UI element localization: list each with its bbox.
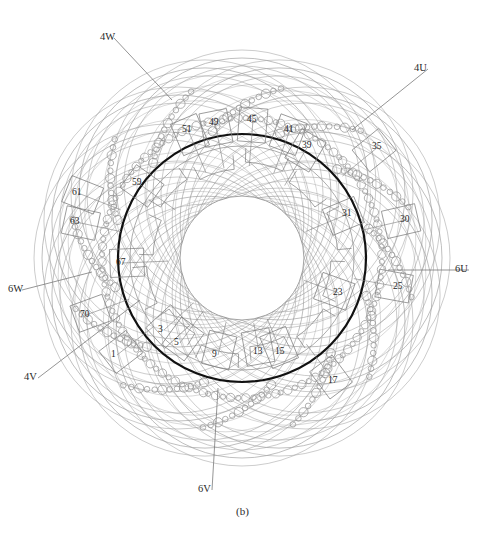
tooth-step-riser [194, 167, 201, 179]
conductor-circle [319, 371, 324, 376]
tooth-step-riser [179, 168, 187, 180]
slot-number-15: 15 [275, 347, 285, 357]
conductor-circle [345, 164, 350, 169]
tooth-step-riser [297, 337, 305, 349]
terminal-leader-line-4w [114, 38, 172, 100]
conductor-circle [375, 280, 383, 288]
conductor-circle [148, 150, 153, 155]
conductor-circle [371, 231, 377, 237]
slot-leader-line [122, 261, 168, 263]
conductor-circle [248, 401, 254, 407]
terminal-leader-line-6v [212, 388, 218, 490]
conductor-circle [137, 351, 145, 359]
tooth-step-riser [315, 199, 327, 207]
conductor-circle [108, 160, 114, 166]
tooth-step-riser [331, 261, 345, 262]
slot-number-13: 13 [253, 347, 263, 357]
conductor-circle [299, 408, 308, 417]
conductor-circle [118, 336, 124, 342]
tooth-step-riser [323, 309, 335, 316]
slot-number-59: 59 [132, 178, 142, 188]
conductor-circle [359, 329, 364, 334]
conductor-circle [107, 210, 112, 215]
conductor-circle [327, 124, 333, 130]
conductor-circle [214, 418, 223, 427]
conductor-circle [264, 387, 270, 393]
terminal-label-4v: 4V [24, 372, 37, 383]
conductor-circle [329, 148, 337, 156]
conductor-circle [176, 99, 185, 108]
tooth-step-riser [139, 254, 153, 255]
conductor-circle [372, 301, 377, 306]
conductor-circle [339, 157, 347, 165]
conductor-circle [108, 183, 114, 189]
stator-winding-diagram [0, 0, 485, 535]
figure-caption: (b) [0, 505, 485, 517]
conductor-circle [355, 176, 360, 181]
conductor-circle [230, 110, 236, 116]
conductor-circle [236, 395, 241, 400]
stator-bore-circle [180, 196, 304, 320]
conductor-circle [146, 360, 154, 368]
conductor-circle [369, 203, 374, 208]
slot-number-45: 45 [247, 115, 257, 125]
conductor-circle [400, 272, 406, 278]
slot-number-49: 49 [209, 118, 219, 128]
slot-number-23: 23 [333, 288, 343, 298]
slot-number-41: 41 [284, 125, 294, 135]
stator-winding-figure: 4W4U6U6V4V6W 514945413935313025231715139… [0, 0, 485, 535]
conductor-circle [211, 391, 219, 399]
slot-number-17: 17 [328, 376, 338, 386]
conductor-circle [106, 174, 115, 183]
conductor-circle [256, 94, 262, 100]
tooth-step-riser [145, 303, 157, 310]
slot-number-51: 51 [182, 125, 192, 135]
conductor-circle [392, 192, 401, 201]
conductor-circle [158, 385, 167, 394]
tooth-step-riser [158, 309, 170, 317]
conductor-circle [141, 153, 149, 161]
conductor-circle [379, 259, 384, 264]
conductor-circle [192, 122, 200, 130]
conductor-circle [194, 388, 199, 393]
conductor-circle [144, 386, 150, 392]
slot-number-25: 25 [393, 282, 403, 292]
conductor-circle [313, 136, 318, 141]
conductor-circle [73, 230, 82, 239]
slot-number-61: 61 [72, 188, 82, 198]
conductor-circle [312, 124, 318, 130]
conductor-circle [264, 116, 272, 124]
conductor-circle [369, 333, 378, 342]
slot-number-5: 5 [174, 338, 179, 348]
conductor-circle [106, 300, 114, 308]
conductor-circle [370, 208, 378, 216]
slot-number-63: 63 [70, 217, 80, 227]
conductor-circle [134, 347, 139, 352]
conductor-circle [103, 215, 111, 223]
conductor-circle [385, 246, 391, 252]
slot-number-9: 9 [212, 350, 217, 360]
conductor-circle [344, 345, 352, 353]
slot-number-39: 39 [302, 141, 312, 151]
conductor-circle [159, 134, 165, 140]
conductor-circle [331, 361, 336, 366]
conductor-circle [320, 377, 326, 383]
conductor-circle [334, 124, 340, 130]
conductor-circle [78, 239, 84, 245]
conductor-circle [284, 386, 292, 394]
slot-number-35: 35 [372, 142, 382, 152]
terminal-label-4u: 4U [414, 63, 427, 74]
conductor-circle [167, 387, 173, 393]
conductor-circle [261, 89, 270, 98]
conductor-circle [335, 355, 343, 363]
terminal-leader-line-4u [352, 69, 428, 130]
conductor-circle [108, 280, 114, 286]
conductor-circle [371, 343, 377, 349]
tooth-step-riser [327, 206, 339, 213]
conductor-circle [152, 387, 158, 393]
slot-number-31: 31 [342, 209, 352, 219]
terminal-label-6u: 6U [455, 264, 468, 275]
conductor-circle [199, 388, 207, 396]
conductor-circle [371, 328, 377, 334]
conductor-circle [100, 227, 108, 235]
